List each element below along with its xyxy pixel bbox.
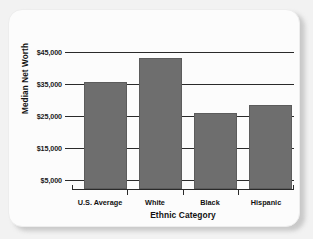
y-axis-tick-labels: $45,000 $35,000 $25,000 $15,000 $5,000 bbox=[9, 52, 62, 189]
y-tick-mark bbox=[65, 180, 72, 181]
chart-page: Median Net Worth $45,000 $35,000 $25,000… bbox=[0, 0, 313, 239]
bar-black[interactable] bbox=[194, 113, 237, 189]
x-axis-title: Ethnic Category bbox=[72, 210, 294, 220]
x-tick-mark bbox=[238, 190, 239, 195]
y-tick-label: $25,000 bbox=[2, 112, 62, 121]
x-tick-mark bbox=[127, 190, 128, 195]
y-tick-mark bbox=[65, 84, 72, 85]
x-tick-label-white: White bbox=[127, 198, 183, 207]
y-tick-mark bbox=[65, 52, 72, 53]
x-tick-label-hispanic: Hispanic bbox=[238, 198, 294, 207]
y-tick-mark bbox=[65, 148, 72, 149]
bar-us-average[interactable] bbox=[84, 82, 127, 189]
y-tick-label: $5,000 bbox=[2, 176, 62, 185]
x-axis-end-cap bbox=[293, 185, 294, 190]
bar-series bbox=[72, 52, 294, 189]
y-tick-label: $15,000 bbox=[2, 144, 62, 153]
x-axis-end-cap bbox=[72, 185, 73, 190]
x-tick-label-us-average: U.S. Average bbox=[72, 198, 128, 207]
x-tick-label-black: Black bbox=[182, 198, 238, 207]
x-axis-line bbox=[72, 189, 294, 190]
y-tick-mark bbox=[65, 116, 72, 117]
bar-white[interactable] bbox=[139, 58, 182, 189]
x-tick-mark bbox=[183, 190, 184, 195]
bar-hispanic[interactable] bbox=[249, 105, 292, 189]
y-tick-label: $35,000 bbox=[2, 80, 62, 89]
chart-card: Median Net Worth $45,000 $35,000 $25,000… bbox=[8, 9, 300, 227]
y-tick-label: $45,000 bbox=[2, 48, 62, 57]
